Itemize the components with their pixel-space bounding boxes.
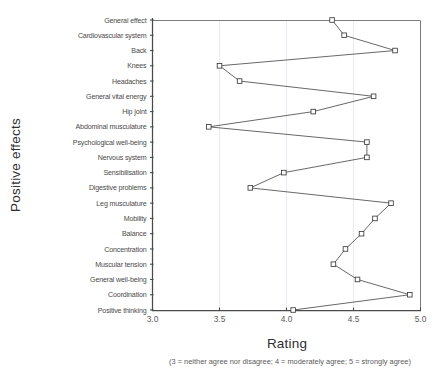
y-axis-category-label: Abdominal musculature (76, 123, 147, 131)
x-axis-tick-label: 4.5 (348, 314, 360, 324)
y-axis-category-label: Muscular tension (95, 261, 146, 269)
data-point-marker (407, 292, 412, 297)
y-axis-category-label: Hip joint (122, 108, 146, 116)
data-point-marker (342, 33, 347, 38)
data-point-marker (365, 140, 370, 145)
data-point-marker (389, 201, 394, 206)
data-point-marker (237, 79, 242, 84)
rating-line-chart: General effectCardiovascular systemBackK… (0, 0, 447, 377)
x-axis-tick-label: 4.0 (281, 314, 293, 324)
data-point-marker (248, 186, 253, 191)
y-axis-category-label: Psychological well-being (73, 139, 147, 147)
y-axis-category-label: Back (131, 47, 147, 55)
y-axis-category-label: Concentration (104, 246, 146, 254)
chart-figure: General effectCardiovascular systemBackK… (0, 0, 447, 377)
y-axis-category-label: General vital energy (86, 93, 147, 101)
y-axis-category-label: Nervous system (98, 154, 147, 162)
data-point-marker (393, 48, 398, 53)
data-point-marker (291, 308, 296, 313)
data-point-marker (217, 63, 222, 68)
data-point-marker (331, 262, 336, 267)
data-point-marker (311, 109, 316, 114)
data-point-marker (373, 216, 378, 221)
y-axis-category-label: General effect (104, 17, 147, 25)
y-axis-category-label: Balance (122, 230, 147, 238)
data-point-marker (343, 247, 348, 252)
y-axis-category-label: Headaches (112, 78, 147, 86)
y-axis-category-label: Mobility (124, 215, 147, 223)
y-axis-category-label: Leg musculature (96, 200, 146, 208)
y-axis-category-label: General well-being (90, 276, 147, 284)
x-axis-tick-label: 5.0 (415, 314, 427, 324)
y-axis-category-label: Sensibilisation (103, 169, 146, 177)
x-axis-title: Rating (267, 336, 307, 351)
data-point-marker (355, 277, 360, 282)
data-point-marker (282, 170, 287, 175)
y-axis-category-label: Digestive problems (89, 184, 147, 192)
y-axis-category-label: Knees (127, 62, 147, 70)
chart-caption: (3 = neither agree nor disagree; 4 = mod… (169, 357, 411, 366)
y-axis-category-label: Coordination (108, 291, 147, 299)
data-point-marker (371, 94, 376, 99)
data-point-marker (365, 155, 370, 160)
x-axis-tick-label: 3.0 (147, 314, 159, 324)
y-axis-category-label: Positive thinking (98, 307, 147, 315)
y-axis-category-label: Cardiovascular system (78, 32, 147, 40)
x-axis-tick-label: 3.5 (214, 314, 226, 324)
data-point-marker (330, 18, 335, 23)
data-point-marker (206, 125, 211, 130)
data-point-marker (359, 231, 364, 236)
y-axis-title: Positive effects (8, 118, 23, 212)
